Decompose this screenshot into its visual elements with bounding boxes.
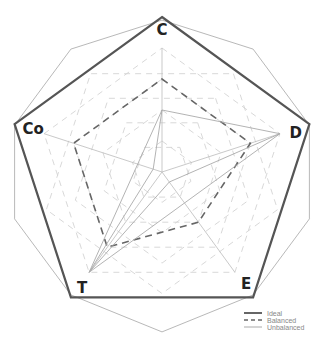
unbalanced-cross-line (89, 134, 280, 273)
axis-spoke (44, 134, 162, 172)
axis-label-co: Co (23, 120, 44, 138)
axis-label-t: T (77, 279, 88, 297)
axis-spoke (162, 172, 235, 272)
axis-spoke (89, 172, 162, 272)
legend-label-unbalanced: Unbalanced (267, 324, 304, 331)
unbalanced-cross-line (89, 110, 162, 272)
axis-label-c: C (156, 21, 167, 39)
series-unbalanced (89, 110, 280, 272)
axis-label-d: D (289, 124, 301, 142)
legend: Ideal Balanced Unbalanced (244, 310, 304, 331)
legend-label-balanced: Balanced (267, 317, 296, 324)
radar-chart: CDETCo Ideal Balanced Unbalanced (0, 0, 331, 352)
axis-spoke (162, 134, 280, 172)
axis-label-e: E (241, 275, 251, 293)
legend-label-ideal: Ideal (267, 310, 283, 317)
